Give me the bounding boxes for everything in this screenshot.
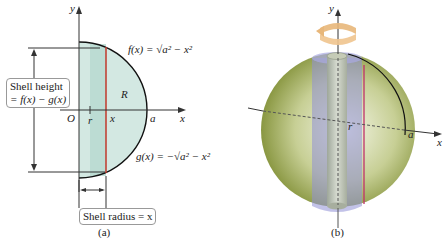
arrowhead-up [31,49,37,56]
r-b-label: r [348,120,353,132]
inner-cylinder-top [327,53,347,60]
radius-arrowhead-left [80,188,86,192]
caption-a: (a) [98,226,111,238]
inner-cylinder [327,56,347,206]
radius-arrowhead-right [99,188,105,192]
x-axis-b-label: x [436,136,442,148]
shell-height-line1: Shell height [10,80,66,93]
a-label: a [150,112,156,124]
x-label: x [109,112,115,124]
shell-radius-label: Shell radius = x [83,210,152,222]
diagram-canvas: y x O r x a R f(x) = √a² − x² g(x) = −√a… [0,0,447,238]
y-axis-b-label: y [328,2,334,14]
rotation-arrow-icon [316,23,356,45]
g-label: g(x) = −√a² − x² [136,150,211,163]
panel-a: y x O r x a R f(x) = √a² − x² g(x) = −√a… [28,2,211,238]
y-axis-label: y [69,2,75,14]
arrowhead-down [31,164,37,171]
inner-cylinder-bottom [327,203,347,210]
x-axis-b-solid [248,108,263,111]
y-axis-arrow [76,6,82,14]
y-axis-b-arrow [335,9,341,16]
shell-radius-label-box: Shell radius = x [79,208,156,225]
a-b-label: a [408,128,414,140]
panel-b: y x r a (b) [248,2,442,238]
origin-label: O [67,112,75,124]
shell-height-label-box: Shell height = f(x) − g(x) [6,78,70,108]
x-axis-label: x [179,112,185,124]
region-label: R [120,88,128,100]
shell-height-line2: = f(x) − g(x) [10,93,66,106]
caption-b: (b) [331,226,344,238]
f-label: f(x) = √a² − x² [128,43,193,56]
r-label: r [88,114,93,126]
